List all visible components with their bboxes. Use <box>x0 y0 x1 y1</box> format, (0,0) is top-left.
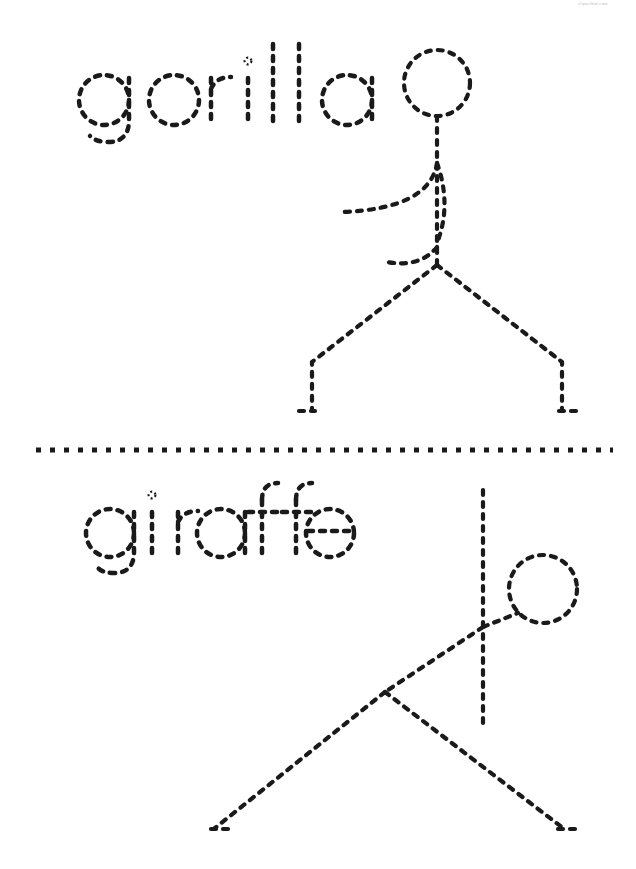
letter-g-bowl <box>79 75 129 125</box>
gorilla-left-leg <box>312 265 437 410</box>
gorilla-left-arm-lower <box>387 247 437 263</box>
giraffe-back <box>385 627 483 692</box>
gorilla-word-tracing[interactable] <box>79 44 372 142</box>
gorilla-head <box>404 50 470 116</box>
letter-i-dot <box>245 58 252 65</box>
panel-divider-cut-line[interactable] <box>30 443 616 459</box>
giraffe-hind-leg <box>385 692 563 828</box>
giraffe-word-tracing[interactable] <box>86 483 354 573</box>
letter-o <box>149 75 199 125</box>
gorilla-panel <box>79 44 578 411</box>
giraffe-letter-f1-hook <box>262 483 278 500</box>
letter-r-arm <box>211 77 231 89</box>
worksheet-page: clipartkid.com <box>0 0 636 869</box>
giraffe-letter-a-bowl <box>197 509 245 557</box>
letter-a-bowl <box>322 75 372 125</box>
giraffe-figure[interactable] <box>211 490 578 829</box>
giraffe-head-connector <box>483 613 518 627</box>
giraffe-letter-g-bowl <box>86 509 134 557</box>
giraffe-front-leg <box>215 692 385 828</box>
giraffe-panel <box>86 483 578 829</box>
letter-g-descender <box>90 78 129 142</box>
giraffe-letter-f2-hook <box>296 483 312 500</box>
gorilla-figure[interactable] <box>299 50 578 411</box>
gorilla-left-arm-upper <box>344 163 437 212</box>
worksheet-canvas <box>0 0 636 869</box>
gorilla-right-leg <box>437 265 562 410</box>
giraffe-letter-i-dot <box>149 492 156 499</box>
giraffe-letter-r-arm <box>178 511 198 522</box>
